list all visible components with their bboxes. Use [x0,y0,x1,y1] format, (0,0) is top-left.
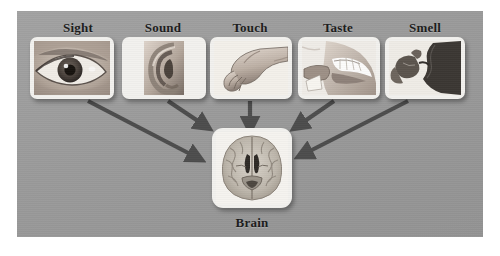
sense-label-touch: Touch [232,20,267,36]
sense-label-smell: Smell [409,20,441,36]
target-label-brain: Brain [236,215,269,231]
hands-photo [214,41,288,95]
sense-label-taste: Taste [323,20,353,36]
diagram-panel: Sight [17,11,483,237]
sensory-pathways-diagram: Sight [0,0,500,256]
sense-label-sight: Sight [63,20,93,36]
ear-photo [144,41,184,95]
eye-photo [34,41,110,95]
sense-card-taste [298,37,380,99]
brain-scan-photo [216,132,288,204]
nose-photo [389,41,461,95]
sense-card-smell [385,37,465,99]
sense-card-sight [30,37,114,99]
brain-card [212,128,292,208]
sense-label-sound: Sound [145,20,181,36]
arrow-sight-to-brain [88,101,196,157]
arrow-smell-to-brain [304,101,408,154]
sense-card-touch [210,37,292,99]
arrow-taste-to-brain [299,101,334,125]
arrow-sound-to-brain [168,101,204,125]
sense-card-sound [122,37,206,99]
mouth-photo [302,41,376,95]
